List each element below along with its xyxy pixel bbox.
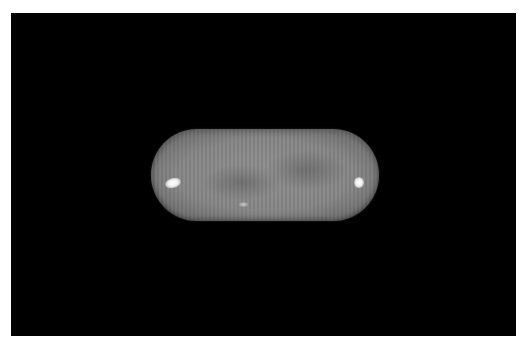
photo-frame [11,13,516,336]
specular-highlight-left [164,176,182,190]
specular-highlight-right [354,177,364,188]
surface-speck [239,202,248,207]
capsule-tablet [151,129,379,221]
